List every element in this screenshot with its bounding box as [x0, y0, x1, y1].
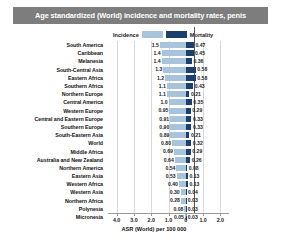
bar-incidence: [169, 108, 185, 114]
table-row: 1.20.58: [108, 74, 229, 82]
category-label-text: Western Europe: [63, 108, 103, 114]
bar-value-mortality: 0.08: [189, 165, 199, 171]
category-label-text: Caribbean: [78, 50, 103, 56]
category-label: World: [2, 139, 106, 147]
table-row: 0.640.26: [108, 156, 229, 164]
table-row: 1.40.36: [108, 57, 229, 65]
bar-incidence: [174, 149, 186, 155]
bar-value-incidence: 0.90: [159, 124, 169, 130]
category-label: Polynesia: [2, 205, 106, 213]
bar-value-mortality: 0.03: [188, 206, 198, 212]
bar-mortality: [186, 165, 187, 171]
bar-value-incidence: 1.1: [159, 91, 166, 97]
bar-value-mortality: 0.03: [188, 214, 198, 220]
category-label: Australia and New Zealand: [2, 156, 106, 164]
category-label-text: Southern Africa: [64, 83, 103, 89]
legend-swatch-mortality: [166, 31, 187, 38]
category-label-text: Western Asia: [70, 189, 103, 195]
category-label: Southern Africa: [2, 82, 106, 90]
category-label-text: Middle Africa: [71, 149, 103, 155]
x-axis-tick-label: 1.0: [165, 217, 172, 223]
table-row: 1.40.45: [108, 49, 229, 57]
bar-value-mortality: 0.33: [193, 116, 203, 122]
bar-value-mortality: 0.45: [195, 50, 205, 56]
table-row: 1.10.21: [108, 90, 229, 98]
x-axis-tick-label: 1.0: [199, 217, 206, 223]
bar-value-mortality: 0.13: [190, 173, 200, 179]
category-label: Northern Europe: [2, 90, 106, 98]
bar-value-mortality: 0.43: [195, 83, 205, 89]
x-axis-tick: [169, 213, 170, 216]
category-label: Central America: [2, 98, 106, 106]
x-axis-tick: [203, 213, 204, 216]
table-row: 1.30.58: [108, 66, 229, 74]
legend-label-mortality: Mortality: [190, 32, 213, 38]
bar-value-mortality: 0.04: [188, 189, 198, 195]
x-axis-tick-label: 3.0: [130, 217, 137, 223]
bar-incidence: [179, 181, 186, 187]
category-label-text: World: [88, 140, 103, 146]
bar-mortality: [186, 189, 187, 195]
bar-value-incidence: 0.80: [161, 140, 171, 146]
category-label: Caribbean: [2, 49, 106, 57]
bar-value-mortality: 0.36: [194, 58, 204, 64]
table-row: 0.540.08: [108, 164, 229, 172]
table-row: 0.280.03: [108, 197, 229, 205]
category-label-text: Polynesia: [79, 206, 103, 212]
bar-mortality: [186, 132, 190, 138]
category-label: South-Central Asia: [2, 66, 106, 74]
table-row: 0.800.32: [108, 139, 229, 147]
bar-mortality: [186, 58, 192, 64]
bar-value-incidence: 0.53: [166, 173, 176, 179]
bar-incidence: [167, 83, 186, 89]
chart-legend: Incidence Mortality: [113, 30, 213, 39]
bar-value-incidence: 1.4: [154, 58, 161, 64]
bar-value-mortality: 0.32: [193, 140, 203, 146]
bar-value-mortality: 0.47: [195, 42, 205, 48]
category-label-text: Central America: [63, 99, 103, 105]
category-label-text: Central and Eastern Europe: [35, 116, 103, 122]
bar-mortality: [186, 181, 188, 187]
table-row: 0.910.33: [108, 115, 229, 123]
bar-mortality: [186, 50, 194, 56]
chart-figure: Age standardized (World) incidence and m…: [0, 0, 281, 249]
category-label-text: Northern Europe: [62, 91, 103, 97]
table-row: 1.00.35: [108, 98, 229, 106]
bar-value-incidence: 0.08: [173, 206, 183, 212]
bar-value-incidence: 0.89: [159, 132, 169, 138]
table-row: 0.300.04: [108, 188, 229, 196]
bar-incidence: [175, 157, 186, 163]
bar-value-incidence: 0.95: [158, 107, 168, 113]
bar-value-mortality: 0.58: [197, 75, 207, 81]
bar-value-incidence: 0.30: [170, 189, 180, 195]
bar-value-incidence: 1.2: [157, 75, 164, 81]
category-label-text: Western Africa: [67, 181, 103, 187]
category-axis-labels: South AmericaCaribbeanMelanesiaSouth-Cen…: [2, 41, 106, 213]
category-label: Eastern Asia: [2, 172, 106, 180]
x-axis-tick: [117, 213, 118, 216]
x-axis-tick: [186, 213, 187, 216]
x-axis-tick: [134, 213, 135, 216]
legend-label-incidence: Incidence: [113, 32, 139, 38]
x-axis-tick: [220, 213, 221, 216]
x-axis-title: ASR (World) per 100 000: [0, 226, 281, 232]
bar-mortality: [186, 116, 192, 122]
category-label-text: Northern America: [59, 165, 103, 171]
x-axis-tick-label: 4.0: [113, 217, 120, 223]
bar-incidence: [177, 173, 186, 179]
category-label-text: Melanesia: [78, 58, 103, 64]
table-row: 0.690.29: [108, 147, 229, 155]
x-axis-tick: [151, 213, 152, 216]
bar-incidence: [176, 165, 185, 171]
category-label: Eastern Africa: [2, 74, 106, 82]
category-label: Southern Europe: [2, 123, 106, 131]
bar-value-mortality: 0.35: [193, 99, 203, 105]
bar-mortality: [186, 83, 193, 89]
bar-incidence: [170, 124, 186, 130]
table-row: 0.950.29: [108, 107, 229, 115]
bar-value-mortality: 0.21: [191, 91, 201, 97]
category-label: Melanesia: [2, 57, 106, 65]
bar-mortality: [186, 91, 190, 97]
bar-value-incidence: 1.4: [154, 50, 161, 56]
chart-title-bar: Age standardized (World) incidence and m…: [13, 7, 268, 24]
